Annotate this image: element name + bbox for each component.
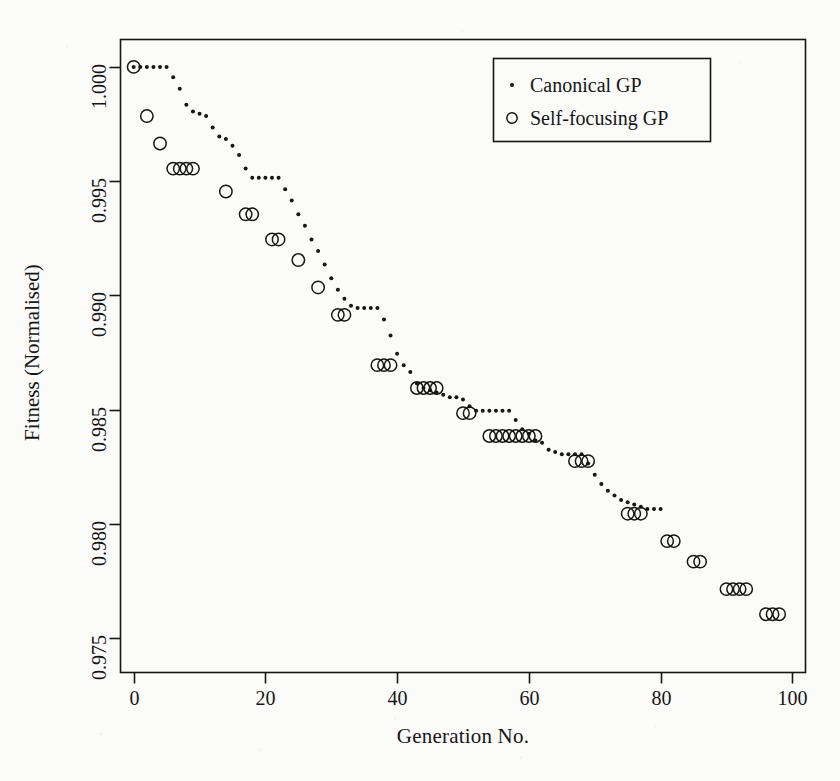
data-point-dot [566,452,570,456]
data-point-dot [619,498,623,502]
data-point-dot [454,395,458,399]
data-point-circle [312,281,324,293]
data-point-dot [632,503,636,507]
y-tick-label: 0.985 [88,407,111,497]
data-point-dot [178,87,182,91]
data-point-dot [507,409,511,413]
data-point-dot [514,418,518,422]
data-point-dot [448,395,452,399]
x-tick-label: 100 [763,687,823,710]
data-point-circle [154,137,166,149]
data-point-dot [461,397,465,401]
data-point-dot [349,304,353,308]
data-point-dot [263,176,267,180]
data-point-dot [191,109,195,113]
x-axis-ticks [135,673,793,684]
data-point-circle [220,185,232,197]
data-point-dot [481,409,485,413]
data-point-dot [553,450,557,454]
data-point-dot [296,212,300,216]
data-point-circle [141,110,153,122]
data-point-dot [158,65,162,69]
data-point-dot [151,65,155,69]
legend-marker-dot [510,83,514,87]
data-point-dot [237,153,241,157]
data-point-dot [375,306,379,310]
data-point-circle [292,254,304,266]
data-point-dot [270,176,274,180]
x-tick-label: 60 [500,687,560,710]
data-point-dot [547,448,551,452]
y-axis-label: Fitness (Normalised) [20,203,45,503]
data-point-dot [626,500,630,504]
data-point-dot [198,112,202,116]
data-point-dot [211,125,215,129]
data-point-dot [612,493,616,497]
data-point-dot [408,370,412,374]
data-point-dot [329,276,333,280]
figure-container: Canonical GP Self-focusing GP 0.9750.980… [0,0,840,781]
data-point-dot [593,473,597,477]
data-point-dot [250,176,254,180]
legend-label-canonical-gp: Canonical GP [530,74,642,96]
x-tick-label: 0 [105,687,165,710]
data-point-dot [244,167,248,171]
data-point-dot [277,176,281,180]
x-tick-label: 20 [236,687,296,710]
x-tick-label: 80 [632,687,692,710]
data-point-dot [540,441,544,445]
data-point-dot [487,409,491,413]
data-point-dot [652,507,656,511]
data-point-dot [362,306,366,310]
data-point-dot [132,65,136,69]
data-point-dot [171,75,175,79]
data-point-dot [356,306,360,310]
data-point-dot [560,452,564,456]
data-point-dot [165,65,169,69]
legend: Canonical GP Self-focusing GP [494,59,711,142]
data-point-dot [316,249,320,253]
data-point-dot [606,489,610,493]
y-tick-label: 0.980 [88,521,111,611]
data-point-dot [389,333,393,337]
x-tick-label: 40 [368,687,428,710]
data-point-dot [369,306,373,310]
data-point-dot [145,65,149,69]
y-tick-label: 0.990 [88,292,111,382]
series-self-focusing-gp [127,61,785,621]
data-point-dot [217,135,221,139]
data-point-dot [441,393,445,397]
x-axis-label: Generation No. [120,724,806,749]
data-point-dot [599,482,603,486]
y-axis-label-wrapper: Fitness (Normalised) [0,0,40,781]
data-point-dot [290,199,294,203]
data-point-dot [257,176,261,180]
data-point-dot [336,288,340,292]
data-point-dot [659,507,663,511]
data-point-dot [184,103,188,107]
data-point-dot [494,409,498,413]
data-point-dot [224,137,228,141]
data-point-dot [230,144,234,148]
data-point-dot [310,237,314,241]
data-point-dot [402,363,406,367]
legend-label-self-focusing-gp: Self-focusing GP [530,107,668,130]
y-tick-label: 1.000 [88,64,111,154]
data-point-dot [501,409,505,413]
data-point-dot [303,224,307,228]
y-tick-label: 0.995 [88,178,111,268]
y-axis-ticks [110,68,121,639]
scatter-plot: Canonical GP Self-focusing GP [0,0,840,781]
data-point-dot [204,114,208,118]
data-point-dot [323,263,327,267]
y-tick-label: 0.975 [88,635,111,725]
legend-box [494,59,711,142]
data-point-dot [382,317,386,321]
data-point-dot [342,297,346,301]
data-point-dot [283,187,287,191]
data-point-dot [395,352,399,356]
